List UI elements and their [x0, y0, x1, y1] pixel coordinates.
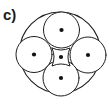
dot-top [59, 28, 63, 32]
geometric-diagram [0, 0, 109, 104]
dot-left [32, 52, 36, 56]
dot-bottom [59, 76, 63, 80]
dot-right [86, 53, 90, 57]
figure-panel: c) [0, 0, 109, 104]
dot-center [59, 55, 63, 59]
panel-label: c) [3, 7, 16, 22]
